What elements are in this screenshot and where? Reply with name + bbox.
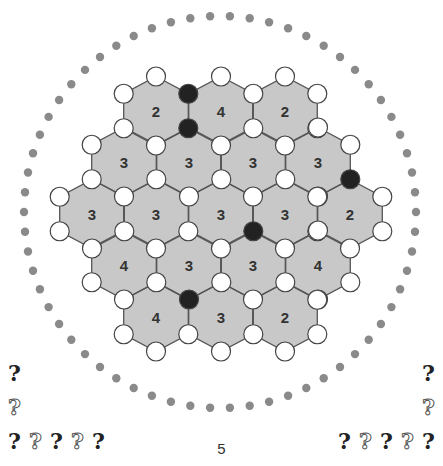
- vertex-empty[interactable]: [308, 325, 327, 344]
- vertex-empty[interactable]: [373, 187, 392, 206]
- ring-dot: [265, 18, 273, 26]
- vertex-empty[interactable]: [244, 187, 263, 206]
- ring-dot: [112, 42, 120, 50]
- hint-column-right: ??: [418, 362, 439, 430]
- vertex-empty[interactable]: [115, 187, 134, 206]
- vertex-empty[interactable]: [114, 84, 133, 103]
- vertex-filled[interactable]: [180, 290, 199, 309]
- vertex-empty[interactable]: [114, 325, 133, 344]
- question-mark-icon-hollow: ?: [397, 430, 418, 452]
- question-mark-icon-filled: ?: [376, 430, 397, 452]
- vertex-empty[interactable]: [276, 273, 295, 292]
- hex-clue-label: 3: [314, 154, 322, 171]
- vertex-empty[interactable]: [82, 273, 101, 292]
- ring-dot: [96, 53, 104, 61]
- ring-dot: [302, 32, 310, 40]
- vertex-empty[interactable]: [308, 187, 327, 206]
- ring-dot: [81, 350, 89, 358]
- vertex-empty[interactable]: [82, 170, 101, 189]
- vertex-empty[interactable]: [212, 239, 231, 258]
- vertex-empty[interactable]: [147, 170, 166, 189]
- ring-dot: [36, 285, 44, 293]
- ring-dot: [44, 113, 52, 121]
- puzzle-board: 2423333333324334432: [0, 0, 443, 466]
- ring-dot: [29, 267, 37, 275]
- ring-dot: [246, 14, 254, 22]
- vertex-filled[interactable]: [179, 119, 198, 138]
- ring-dot: [186, 402, 194, 410]
- hint-row-right: ?????: [334, 430, 439, 452]
- vertex-empty[interactable]: [147, 273, 166, 292]
- ring-dot: [112, 374, 120, 382]
- vertex-empty[interactable]: [147, 239, 166, 258]
- vertex-empty[interactable]: [179, 325, 198, 344]
- vertex-empty[interactable]: [373, 222, 392, 241]
- vertex-empty[interactable]: [309, 221, 328, 240]
- vertex-empty[interactable]: [147, 342, 166, 361]
- ring-dot: [206, 404, 214, 412]
- vertex-empty[interactable]: [50, 187, 69, 206]
- ring-dot: [351, 350, 359, 358]
- question-mark-icon-filled: ?: [46, 430, 67, 452]
- hex-clue-label: 3: [185, 257, 193, 274]
- ring-dot: [130, 32, 138, 40]
- vertex-empty[interactable]: [50, 222, 69, 241]
- vertex-filled[interactable]: [341, 170, 360, 189]
- vertex-filled[interactable]: [179, 84, 198, 103]
- vertex-empty[interactable]: [341, 239, 360, 258]
- vertex-empty[interactable]: [180, 187, 199, 206]
- ring-dot: [67, 80, 75, 88]
- question-mark-icon-filled: ?: [4, 362, 25, 384]
- vertex-empty[interactable]: [115, 222, 134, 241]
- vertex-empty[interactable]: [244, 325, 263, 344]
- ring-dot: [81, 66, 89, 74]
- ring-dot: [55, 96, 63, 104]
- ring-dot: [21, 228, 29, 236]
- hex-clue-label: 2: [281, 103, 289, 120]
- hex-clue-label: 3: [88, 206, 96, 223]
- vertex-empty[interactable]: [212, 342, 231, 361]
- vertex-empty[interactable]: [308, 290, 327, 309]
- ring-dot: [320, 374, 328, 382]
- ring-dot: [284, 24, 292, 32]
- vertex-empty[interactable]: [212, 67, 231, 86]
- ring-dot: [96, 363, 104, 371]
- vertex-empty[interactable]: [115, 290, 134, 309]
- question-mark-icon-hollow: ?: [355, 430, 376, 452]
- vertex-empty[interactable]: [212, 170, 231, 189]
- hex-clue-label: 3: [249, 257, 257, 274]
- vertex-empty[interactable]: [147, 67, 166, 86]
- question-mark-icon-filled: ?: [4, 430, 25, 452]
- vertex-empty[interactable]: [244, 84, 263, 103]
- ring-dot: [44, 303, 52, 311]
- ring-dot: [186, 14, 194, 22]
- vertex-filled[interactable]: [244, 222, 263, 241]
- ring-dot: [336, 53, 344, 61]
- vertex-empty[interactable]: [244, 290, 263, 309]
- vertex-empty[interactable]: [212, 136, 231, 155]
- hex-clue-label: 3: [217, 206, 225, 223]
- ring-dot: [20, 208, 28, 216]
- vertex-empty[interactable]: [341, 135, 360, 154]
- vertex-empty[interactable]: [276, 170, 295, 189]
- vertex-empty[interactable]: [114, 119, 133, 138]
- vertex-empty[interactable]: [276, 342, 295, 361]
- vertex-empty[interactable]: [147, 136, 166, 155]
- vertex-empty[interactable]: [244, 119, 263, 138]
- vertex-empty[interactable]: [179, 222, 198, 241]
- vertex-empty[interactable]: [83, 239, 102, 258]
- ring-dot: [148, 24, 156, 32]
- ring-dot: [412, 208, 420, 216]
- hex-clue-label: 3: [217, 309, 225, 326]
- vertex-empty[interactable]: [309, 118, 328, 137]
- vertex-empty[interactable]: [308, 84, 327, 103]
- vertex-empty[interactable]: [212, 273, 231, 292]
- ring-dot: [408, 247, 416, 255]
- vertex-empty[interactable]: [82, 135, 101, 154]
- vertex-empty[interactable]: [276, 239, 295, 258]
- vertex-empty[interactable]: [276, 67, 295, 86]
- vertex-empty[interactable]: [276, 136, 295, 155]
- ring-dot: [403, 267, 411, 275]
- vertex-empty[interactable]: [341, 273, 360, 292]
- ring-dot: [336, 363, 344, 371]
